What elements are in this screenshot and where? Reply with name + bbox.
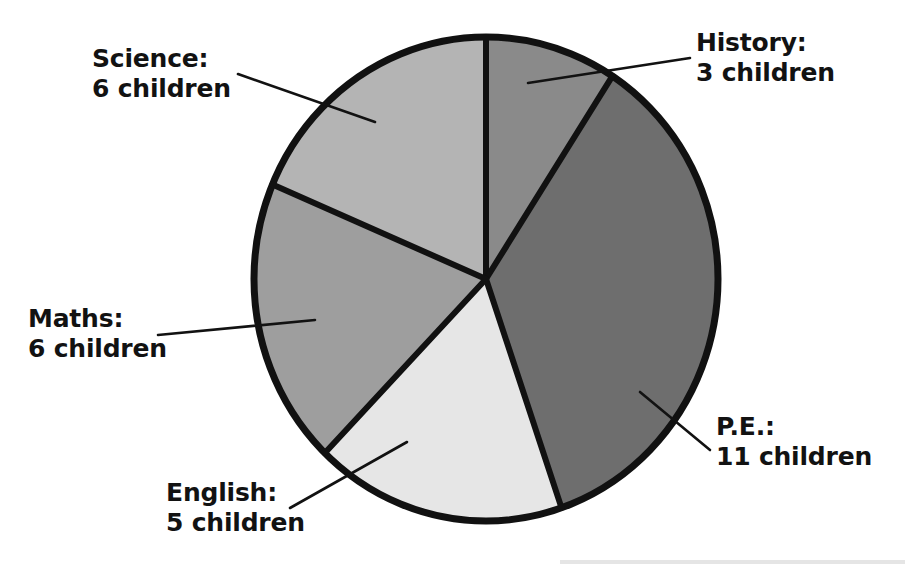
slice-label-english-line2: 5 children [166, 508, 305, 538]
slice-label-english: English: 5 children [166, 478, 305, 537]
slice-label-science: Science: 6 children [92, 44, 231, 103]
slice-label-pe: P.E.: 11 children [716, 412, 872, 471]
slice-label-english-line1: English: [166, 478, 305, 508]
slice-label-science-line2: 6 children [92, 74, 231, 104]
slice-label-maths: Maths: 6 children [28, 304, 167, 363]
slice-label-history-line1: History: [696, 28, 835, 58]
slice-label-history: History: 3 children [696, 28, 835, 87]
slice-label-pe-line2: 11 children [716, 442, 872, 472]
slice-label-pe-line1: P.E.: [716, 412, 872, 442]
slice-label-history-line2: 3 children [696, 58, 835, 88]
pie-chart-figure: Science: 6 children History: 3 children … [0, 0, 905, 570]
slice-label-maths-line2: 6 children [28, 334, 167, 364]
page-edge-artifact [560, 560, 905, 564]
slice-label-maths-line1: Maths: [28, 304, 167, 334]
slice-label-science-line1: Science: [92, 44, 231, 74]
